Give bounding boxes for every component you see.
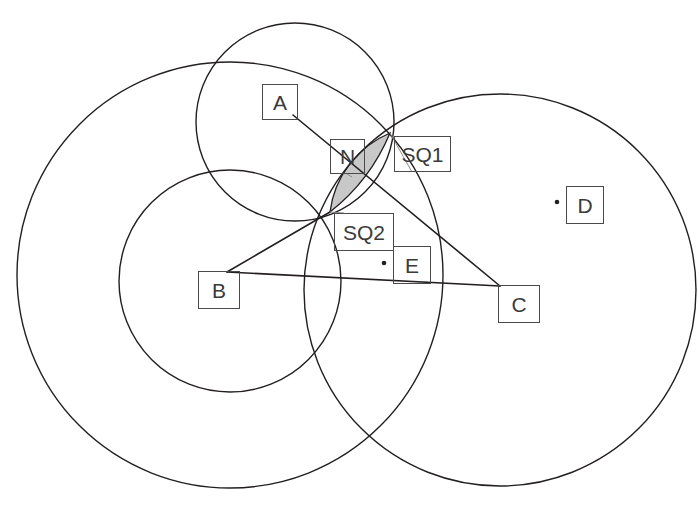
geometry-diagram-canvas: A N SQ1 SQ2 E D B C xyxy=(0,0,699,505)
label-box-C[interactable]: C xyxy=(498,285,540,323)
geometry-svg xyxy=(0,0,699,505)
label-text-A: A xyxy=(273,92,287,113)
label-box-A[interactable]: A xyxy=(262,84,298,120)
point-dot-E xyxy=(382,261,387,266)
label-text-C: C xyxy=(511,294,526,315)
label-text-E: E xyxy=(405,255,419,276)
label-box-B[interactable]: B xyxy=(198,271,240,309)
point-dot-D xyxy=(555,200,560,205)
label-box-N[interactable]: N xyxy=(330,139,365,174)
label-text-SQ2: SQ2 xyxy=(343,222,385,243)
label-text-N: N xyxy=(340,146,355,167)
segment-B-to-C xyxy=(227,272,500,286)
label-text-SQ1: SQ1 xyxy=(401,144,443,165)
label-box-D[interactable]: D xyxy=(566,186,604,224)
label-text-D: D xyxy=(577,195,592,216)
label-box-SQ1[interactable]: SQ1 xyxy=(394,136,451,172)
segment-B-to-SQ2 xyxy=(227,212,330,272)
label-text-B: B xyxy=(212,280,226,301)
label-box-E[interactable]: E xyxy=(393,246,431,284)
label-box-SQ2[interactable]: SQ2 xyxy=(334,213,394,251)
